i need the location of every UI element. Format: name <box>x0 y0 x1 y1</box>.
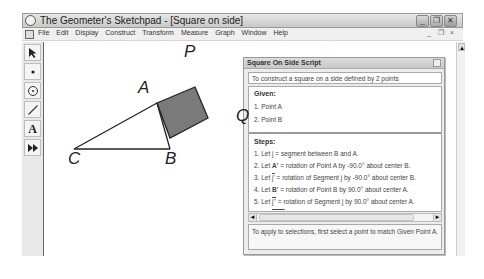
title-bar: The Geometer's Sketchpad - [Square on si… <box>22 13 463 28</box>
minimize-button[interactable]: _ <box>416 15 429 27</box>
text-tool[interactable]: A <box>24 120 41 137</box>
point-label-b[interactable]: B <box>165 149 176 169</box>
step-item[interactable]: 1. Let j = segment between B and A. <box>249 150 441 157</box>
menu-window[interactable]: Window <box>242 29 267 36</box>
fast-forward-icon <box>27 142 39 154</box>
step-prefix: 5. Let <box>254 198 272 205</box>
step-text: = segment between B and A. <box>274 150 359 157</box>
custom-tool[interactable] <box>24 139 41 156</box>
step-prefix: 4. Let <box>254 186 272 193</box>
script-dialog-close-button[interactable] <box>433 59 441 67</box>
step-item[interactable]: 6. Let A'B' = segment between A' and B'. <box>249 210 441 212</box>
script-description-field[interactable]: To construct a square on a side defined … <box>248 72 442 84</box>
scroll-right-arrow[interactable]: ► <box>433 214 441 221</box>
document-icon[interactable] <box>25 30 34 39</box>
point-icon <box>27 66 39 78</box>
point-label-p[interactable]: P <box>184 42 195 62</box>
point-label-a[interactable]: A <box>138 78 149 98</box>
script-horizontal-scrollbar[interactable]: ◄ ► <box>248 213 442 222</box>
step-item[interactable]: 5. Let j'' = rotation of Segment j by 90… <box>249 198 441 205</box>
close-button[interactable]: ✕ <box>444 15 457 27</box>
restore-button[interactable]: ❐ <box>430 15 443 27</box>
step-prefix: 6. Let <box>254 210 272 212</box>
script-hint-text: To apply to selections, first select a p… <box>248 224 442 250</box>
steps-section: Steps: 1. Let j = segment between B and … <box>249 136 441 212</box>
step-prefix: 3. Let <box>254 174 272 181</box>
window-title: The Geometer's Sketchpad - [Square on si… <box>40 15 243 26</box>
menu-bar: File Edit Display Construct Transform Me… <box>22 28 463 41</box>
compass-tool[interactable] <box>24 82 41 99</box>
given-header: Given: <box>249 90 441 97</box>
scroll-up-arrow[interactable]: ▲ <box>458 43 465 51</box>
point-tool[interactable] <box>24 63 41 80</box>
step-prefix: 2. Let <box>254 162 272 169</box>
menu-measure[interactable]: Measure <box>181 29 208 36</box>
menu-file[interactable]: File <box>38 29 49 36</box>
menu-help[interactable]: Help <box>274 29 288 36</box>
segment-icon <box>27 104 39 116</box>
doc-restore-button[interactable]: ❐ <box>438 29 444 37</box>
toolbox: A <box>22 42 44 256</box>
arrow-icon <box>27 47 39 59</box>
point-label-c[interactable]: C <box>68 149 80 169</box>
step-text: = rotation of Segment j by -90.0° about … <box>275 174 416 181</box>
step-item[interactable]: 2. Let A' = rotation of Point A by -90.0… <box>249 162 441 169</box>
doc-close-button[interactable]: × <box>450 29 454 36</box>
step-object: A'B' <box>272 210 284 212</box>
step-item[interactable]: 4. Let B' = rotation of Point B by 90.0°… <box>249 186 441 193</box>
selection-arrow-tool[interactable] <box>24 44 41 61</box>
steps-header: Steps: <box>249 138 441 145</box>
menu-edit[interactable]: Edit <box>56 29 68 36</box>
script-dialog: Square On Side Script To construct a squ… <box>243 57 445 255</box>
step-prefix: 1. Let <box>254 150 272 157</box>
circle-icon <box>27 85 39 97</box>
given-item[interactable]: 1. Point A <box>249 103 441 110</box>
sketchpad-app-icon[interactable] <box>25 15 36 26</box>
scroll-left-arrow[interactable]: ◄ <box>249 214 257 221</box>
script-dialog-title: Square On Side Script <box>247 59 321 66</box>
step-text: = rotation of Segment j by 90.0° about c… <box>276 198 415 205</box>
scroll-thumb[interactable] <box>259 214 414 221</box>
script-dialog-title-bar[interactable]: Square On Side Script <box>244 58 444 69</box>
text-icon: A <box>28 123 37 135</box>
doc-minimize-button[interactable]: _ <box>427 29 431 36</box>
menu-display[interactable]: Display <box>75 29 98 36</box>
menu-graph[interactable]: Graph <box>215 29 234 36</box>
menu-construct[interactable]: Construct <box>105 29 135 36</box>
menu-transform[interactable]: Transform <box>142 29 174 36</box>
vertical-scrollbar[interactable]: ▲ <box>456 42 465 256</box>
step-text: = segment between A' and B'. <box>285 210 373 212</box>
given-item[interactable]: 2. Point B <box>249 116 441 123</box>
step-text: = rotation of Point B by 90.0° about cen… <box>278 186 408 193</box>
step-text: = rotation of Point A by -90.0° about ce… <box>278 162 410 169</box>
given-section: Given: 1. Point A 2. Point B <box>249 87 441 134</box>
point-label-q[interactable]: Q <box>236 106 249 126</box>
straightedge-tool[interactable] <box>24 101 41 118</box>
script-details-panel: Given: 1. Point A 2. Point B Steps: 1. L… <box>248 86 442 212</box>
segment-ca <box>74 103 157 149</box>
step-item[interactable]: 3. Let j' = rotation of Segment j by -90… <box>249 174 441 181</box>
